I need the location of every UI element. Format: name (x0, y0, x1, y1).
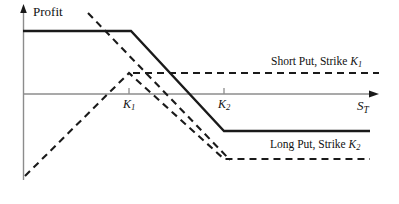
tick-label-k2: K2 (218, 98, 230, 112)
annotation-long-put: Long Put, Strike K2 (270, 139, 360, 153)
axis-ticks (129, 88, 224, 94)
annotation-long-put-text: Long Put, Strike (270, 138, 349, 150)
y-axis-label: Profit (33, 5, 63, 18)
annotation-short-put: Short Put, Strike K1 (271, 56, 362, 70)
tick-label-k1: K1 (123, 98, 135, 112)
annotation-short-put-symbol: K (350, 55, 358, 67)
tick-label-k2-base: K (218, 97, 226, 111)
series-short-put-k1-slope (88, 13, 230, 160)
plot-canvas (0, 0, 399, 204)
x-axis (24, 90, 380, 97)
annotation-short-put-text: Short Put, Strike (271, 55, 350, 67)
annotation-long-put-subscript: 2 (356, 143, 360, 152)
payoff-diagram-figure: Profit ST K1 K2 Short Put, Strike K1 Lon… (0, 0, 399, 204)
series-combined-bear-spread (23, 31, 370, 131)
annotation-short-put-subscript: 1 (358, 60, 362, 69)
x-axis-label: ST (357, 99, 369, 115)
tick-label-k1-base: K (123, 97, 131, 111)
tick-label-k1-sub: 1 (131, 102, 135, 112)
tick-label-k2-sub: 2 (226, 102, 230, 112)
x-axis-label-sub: T (364, 105, 369, 115)
series-long-put-k2 (25, 73, 370, 176)
